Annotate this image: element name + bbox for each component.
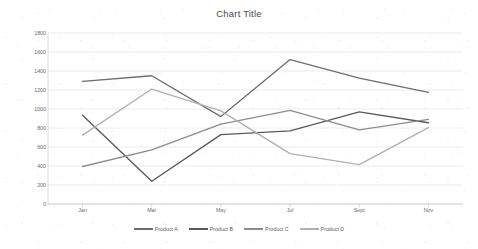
y-axis-tick-label: 1200: [12, 87, 46, 93]
axis-lines: [48, 33, 463, 208]
series-lines: [83, 60, 429, 182]
y-axis-tick-labels: 020040060080010001200140016001800: [12, 0, 46, 249]
legend-label: Product A: [155, 226, 178, 232]
x-axis-tick-label: May: [216, 207, 226, 213]
chart-legend: Product AProduct BProduct CProduct D: [0, 226, 478, 232]
y-axis-tick-label: 1000: [12, 106, 46, 112]
y-axis-tick-label: 1600: [12, 49, 46, 55]
legend-line-swatch-icon: [300, 228, 319, 230]
y-axis-tick-label: 0: [12, 201, 46, 207]
legend-item[interactable]: Product A: [134, 226, 178, 232]
x-axis-tick-label: Jul: [287, 207, 294, 213]
legend-line-swatch-icon: [134, 228, 153, 230]
y-axis-tick-label: 200: [12, 182, 46, 188]
x-axis-tick-label: Sept: [354, 207, 365, 213]
legend-label: Product C: [265, 226, 289, 232]
x-axis-tick-label: Nov: [424, 207, 433, 213]
x-axis-tick-label: Mar: [147, 207, 156, 213]
legend-label: Product B: [210, 226, 233, 232]
legend-item[interactable]: Product C: [244, 226, 289, 232]
y-axis-tick-label: 800: [12, 125, 46, 131]
y-axis-tick-label: 1800: [12, 30, 46, 36]
legend-line-swatch-icon: [189, 228, 208, 230]
y-axis-tick-label: 1400: [12, 68, 46, 74]
y-axis-tick-label: 400: [12, 163, 46, 169]
legend-line-swatch-icon: [244, 228, 263, 230]
line-chart: Chart Title 0200400600800100012001400160…: [0, 0, 478, 249]
legend-label: Product D: [321, 226, 345, 232]
legend-item[interactable]: Product D: [300, 226, 345, 232]
x-axis-tick-label: Jan: [78, 207, 87, 213]
chart-plot-area: [0, 0, 478, 249]
legend-item[interactable]: Product B: [189, 226, 233, 232]
y-axis-tick-label: 600: [12, 144, 46, 150]
